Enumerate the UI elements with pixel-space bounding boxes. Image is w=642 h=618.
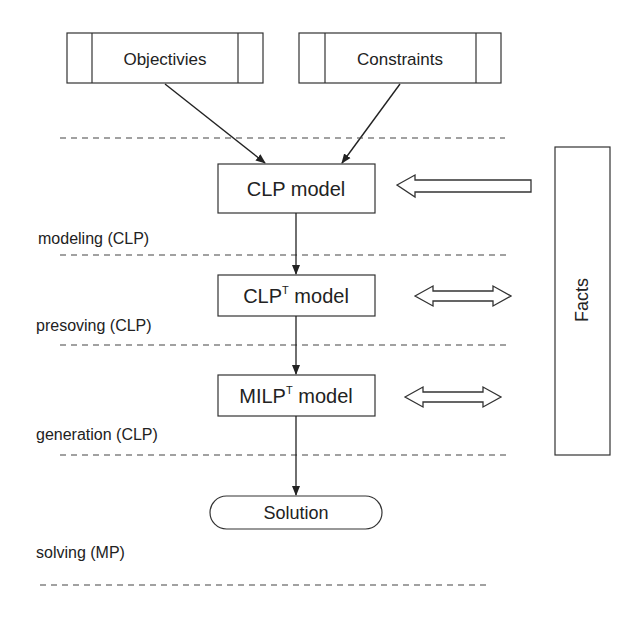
workflow-diagram: Objectivies Constraints CLP model CLPT m… <box>0 0 642 618</box>
clpt-facts-bidirectional-arrow-icon <box>415 286 511 306</box>
constraints-arrow <box>342 84 400 163</box>
objectives-label: Objectivies <box>123 50 206 69</box>
milpt-model-label: MILPT model <box>239 384 352 407</box>
solution-label: Solution <box>263 503 328 523</box>
objectives-box: Objectivies <box>67 33 263 83</box>
objectives-arrow <box>165 84 265 163</box>
stage-label-presolving: presoving (CLP) <box>36 317 152 334</box>
constraints-box: Constraints <box>299 33 501 83</box>
facts-label: Facts <box>572 278 592 322</box>
stage-label-solving: solving (MP) <box>36 544 125 561</box>
stage-label-modeling: modeling (CLP) <box>38 230 149 247</box>
clpt-model-box: CLPT model <box>218 275 375 316</box>
solution-terminator: Solution <box>210 496 382 529</box>
facts-box: Facts <box>555 147 610 455</box>
stage-label-generation: generation (CLP) <box>36 426 158 443</box>
facts-to-clp-arrow-icon <box>397 175 531 197</box>
clp-model-box: CLP model <box>218 164 375 213</box>
clp-model-label: CLP model <box>247 178 346 200</box>
milpt-model-box: MILPT model <box>218 375 375 416</box>
milpt-facts-bidirectional-arrow-icon <box>405 387 501 407</box>
constraints-label: Constraints <box>357 50 443 69</box>
clpt-model-label: CLPT model <box>243 284 349 307</box>
